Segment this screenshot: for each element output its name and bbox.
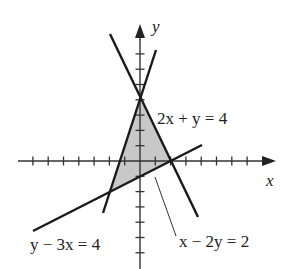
label-leader-line <box>155 177 176 236</box>
label-x-minus-2y: x − 2y = 2 <box>179 232 249 251</box>
label-2x-plus-y: 2x + y = 4 <box>157 109 228 128</box>
line-x-minus-2y <box>33 145 202 231</box>
graph-canvas: y x 2x + y = 4 x − 2y = 2 y − 3x = 4 <box>0 0 296 269</box>
x-axis-label: x <box>265 171 274 190</box>
label-y-minus-3x: y − 3x = 4 <box>30 235 101 254</box>
y-axis-label: y <box>150 17 160 36</box>
